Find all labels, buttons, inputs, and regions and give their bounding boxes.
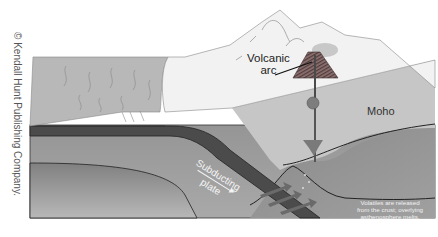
- subduction-diagram: © Kendall Hunt Publishing Company. Volca…: [0, 0, 438, 237]
- volcanic-arc-label: Volcanic arc: [247, 52, 290, 76]
- volatiles-line1: Volatiles are released: [345, 199, 435, 206]
- volatiles-line2: from the crust; overlying: [345, 206, 435, 213]
- magma-chamber: [307, 97, 319, 109]
- volcanic-arc-line1: Volcanic: [247, 52, 290, 64]
- volatiles-line3: asthenosphere melts.: [345, 213, 435, 220]
- moho-label: Moho: [367, 106, 395, 117]
- copyright-notice: © Kendall Hunt Publishing Company.: [11, 9, 23, 219]
- volcanic-arc-line2: arc: [247, 64, 290, 76]
- volatiles-caption: Volatiles are released from the crust; o…: [345, 199, 435, 221]
